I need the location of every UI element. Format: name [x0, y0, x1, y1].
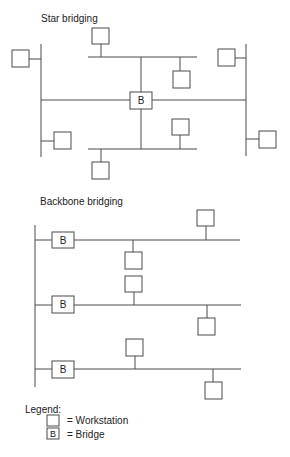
svg-text:B: B [138, 95, 145, 106]
workstation-icon [126, 339, 143, 356]
svg-text:B: B [60, 299, 67, 310]
legend: Legend: = Workstation B = Bridge [25, 404, 128, 440]
legend-title: Legend: [25, 404, 61, 415]
backbone-bridging-diagram: Backbone bridging B B B [35, 196, 241, 399]
legend-workstation-label: = Workstation [67, 415, 128, 426]
workstation-icon [205, 382, 222, 399]
workstation-icon [259, 131, 276, 148]
bridge-3: B [52, 361, 74, 378]
workstation-icon [125, 252, 142, 269]
bridge-1: B [52, 232, 74, 248]
workstation-icon [173, 71, 190, 88]
workstation-icon [197, 210, 214, 226]
workstation-icon [172, 119, 189, 135]
workstation-icon [125, 276, 142, 292]
svg-text:B: B [60, 364, 67, 375]
backbone-bridging-title: Backbone bridging [40, 196, 123, 207]
svg-text:B: B [60, 235, 67, 246]
workstation-icon [12, 50, 29, 67]
svg-text:B: B [50, 429, 56, 439]
star-bridging-title: Star bridging [41, 13, 98, 24]
workstation-icon [198, 318, 215, 335]
legend-bridge-label: = Bridge [67, 429, 105, 440]
central-bridge: B [130, 92, 152, 109]
workstation-icon [218, 49, 235, 66]
workstation-icon [54, 132, 71, 149]
network-bridging-diagram: Star bridging B [0, 0, 290, 457]
workstation-icon [92, 162, 109, 179]
workstation-icon [47, 415, 59, 426]
bridge-2: B [52, 296, 74, 313]
workstation-icon [92, 28, 109, 44]
star-bridging-diagram: Star bridging B [12, 13, 276, 179]
